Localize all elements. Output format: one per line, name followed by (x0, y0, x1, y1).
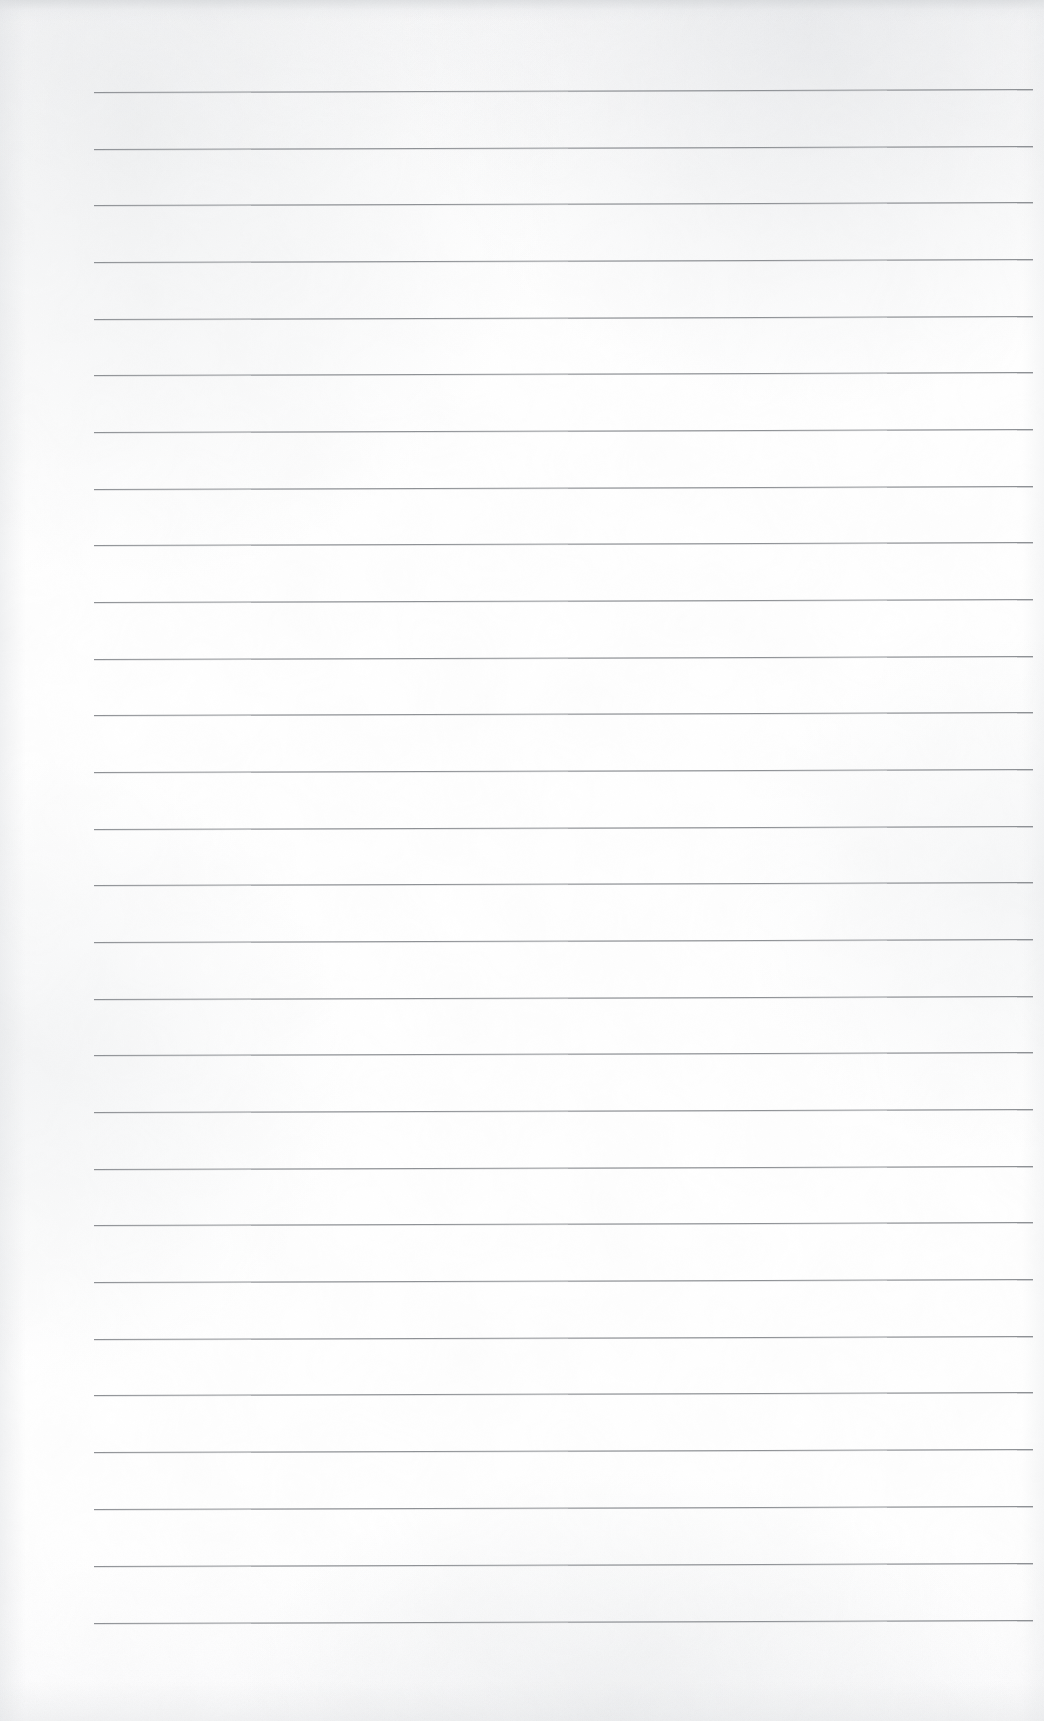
scanned-page (0, 0, 1044, 1721)
rule-line (94, 712, 1033, 716)
rule-line (94, 1166, 1033, 1170)
rule-line (94, 826, 1033, 830)
rule-line (94, 1109, 1033, 1113)
rule-line (94, 259, 1033, 263)
rule-line (94, 202, 1033, 206)
rule-line (94, 1620, 1033, 1624)
rule-line (94, 996, 1033, 1000)
rule-line (94, 599, 1033, 603)
rule-line (94, 939, 1033, 943)
ruled-lines (0, 0, 1044, 1721)
rule-line (94, 542, 1033, 546)
rule-line (94, 882, 1033, 886)
rule-line (94, 1449, 1033, 1453)
rule-line (94, 1563, 1033, 1567)
rule-line (94, 769, 1033, 773)
rule-line (94, 429, 1033, 433)
rule-line (94, 1506, 1033, 1510)
rule-line (94, 89, 1033, 93)
rule-line (94, 146, 1033, 150)
rule-line (94, 1052, 1033, 1056)
rule-line (94, 316, 1033, 320)
rule-line (94, 1279, 1033, 1283)
rule-line (94, 1222, 1033, 1226)
rule-line (94, 486, 1033, 490)
rule-line (94, 372, 1033, 376)
rule-line (94, 1336, 1033, 1340)
rule-line (94, 656, 1033, 660)
rule-line (94, 1392, 1033, 1396)
